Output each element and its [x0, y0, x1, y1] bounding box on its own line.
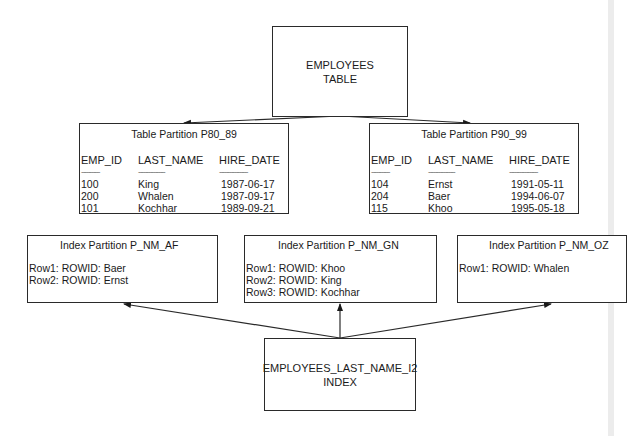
- index-partition-rows: Row1: ROWID: Baer Row2: ROWID: Ernst: [29, 262, 128, 286]
- index-partition-p-nm-oz: Index Partition P_NM_OZ Row1: ROWID: Wha…: [457, 235, 627, 303]
- separator: ----------------: [138, 168, 165, 176]
- table-row: 100 King 1987-06-17: [80, 178, 288, 190]
- index-row: Row3: ROWID: Kochhar: [246, 286, 360, 298]
- index-partition-title: Index Partition P_NM_OZ: [489, 239, 609, 251]
- table-row: 200 Whalen 1987-09-17: [80, 190, 288, 202]
- index-partition-p-nm-gn: Index Partition P_NM_GN Row1: ROWID: Kho…: [244, 235, 437, 303]
- index-row: Row1: ROWID: Whalen: [459, 262, 569, 274]
- partition-table: EMP_ID LAST_NAME HIRE_DATE ----------- -…: [370, 152, 578, 214]
- cell-last-name: Kochhar: [138, 202, 177, 214]
- col-header-emp-id: EMP_ID: [371, 152, 412, 168]
- cell-emp-id: 104: [371, 178, 389, 190]
- col-header-emp-id: EMP_ID: [81, 152, 122, 168]
- separator: -----------------: [509, 168, 537, 176]
- index-label: EMPLOYEES_LAST_NAME_I2: [263, 361, 418, 375]
- index-partition-title: Index Partition P_NM_GN: [278, 239, 399, 251]
- separator-row: ----------- ---------------- -----------…: [370, 168, 578, 178]
- col-header-hire-date: HIRE_DATE: [219, 152, 280, 168]
- table-header-row: EMP_ID LAST_NAME HIRE_DATE: [80, 152, 288, 168]
- partition-title: Table Partition P80_89: [80, 128, 288, 140]
- separator: -----------------: [219, 168, 247, 176]
- cell-hire-date: 1991-05-11: [511, 178, 564, 190]
- arrow-index-to-p-nm-af: [124, 304, 340, 338]
- col-header-last-name: LAST_NAME: [428, 152, 493, 168]
- table-row: 101 Kochhar 1989-09-21: [80, 202, 288, 214]
- cell-hire-date: 1987-06-17: [221, 178, 275, 190]
- arrow-index-to-p-nm-oz: [340, 304, 551, 338]
- employees-last-name-index-box: EMPLOYEES_LAST_NAME_I2 INDEX: [264, 338, 416, 411]
- cell-emp-id: 204: [371, 190, 389, 202]
- index-row: Row2: ROWID: King: [246, 274, 360, 286]
- separator: ----------------: [428, 168, 455, 176]
- table-partition-p90-99: Table Partition P90_99 EMP_ID LAST_NAME …: [369, 123, 579, 214]
- cell-emp-id: 115: [371, 202, 388, 214]
- cell-emp-id: 100: [81, 178, 99, 190]
- table-row: 204 Baer 1994-06-07: [370, 190, 578, 202]
- cell-last-name: Ernst: [428, 178, 453, 190]
- cell-last-name: Whalen: [138, 190, 174, 202]
- employees-table-sublabel: TABLE: [323, 72, 357, 86]
- col-header-hire-date: HIRE_DATE: [509, 152, 570, 168]
- cell-hire-date: 1987-09-17: [221, 190, 275, 202]
- index-partition-p-nm-af: Index Partition P_NM_AF Row1: ROWID: Bae…: [27, 235, 218, 303]
- table-row: 104 Ernst 1991-05-11: [370, 178, 578, 190]
- separator: -----------: [371, 168, 389, 176]
- index-row: Row1: ROWID: Baer: [29, 262, 128, 274]
- index-partition-title: Index Partition P_NM_AF: [60, 239, 178, 251]
- cell-last-name: Khoo: [428, 202, 453, 214]
- cell-hire-date: 1995-05-18: [511, 202, 565, 214]
- employees-table-label: EMPLOYEES: [306, 58, 374, 72]
- cell-hire-date: 1989-09-21: [221, 202, 275, 214]
- table-partition-p80-89: Table Partition P80_89 EMP_ID LAST_NAME …: [79, 123, 289, 214]
- separator-row: ----------- ---------------- -----------…: [80, 168, 288, 178]
- arrow-table-to-p80-89: [184, 116, 340, 123]
- separator: -----------: [81, 168, 99, 176]
- partition-title: Table Partition P90_99: [370, 128, 578, 140]
- index-partition-rows: Row1: ROWID: Khoo Row2: ROWID: King Row3…: [246, 262, 360, 298]
- index-row: Row1: ROWID: Khoo: [246, 262, 360, 274]
- arrow-table-to-p90-99: [340, 116, 470, 123]
- partition-table: EMP_ID LAST_NAME HIRE_DATE ----------- -…: [80, 152, 288, 214]
- index-sublabel: INDEX: [323, 375, 357, 389]
- table-header-row: EMP_ID LAST_NAME HIRE_DATE: [370, 152, 578, 168]
- index-row: Row2: ROWID: Ernst: [29, 274, 128, 286]
- index-partition-rows: Row1: ROWID: Whalen: [459, 262, 569, 274]
- cell-hire-date: 1994-06-07: [511, 190, 565, 202]
- cell-emp-id: 101: [81, 202, 99, 214]
- cell-emp-id: 200: [81, 190, 99, 202]
- page-edge-shadow: [608, 0, 614, 436]
- cell-last-name: King: [138, 178, 159, 190]
- cell-last-name: Baer: [428, 190, 450, 202]
- table-row: 115 Khoo 1995-05-18: [370, 202, 578, 214]
- col-header-last-name: LAST_NAME: [138, 152, 203, 168]
- employees-table-box: EMPLOYEES TABLE: [272, 26, 408, 117]
